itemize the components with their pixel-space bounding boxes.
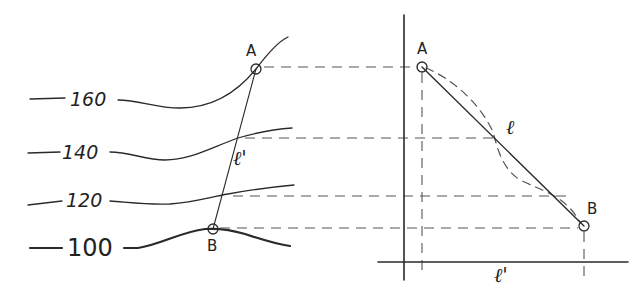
contour-label-120: 120 [66, 189, 102, 211]
point-b-profile-label: B [587, 200, 597, 218]
point-a-profile-label: A [417, 40, 428, 58]
contour-160-line [118, 37, 288, 108]
contour-120-line [110, 185, 294, 204]
profile-segment-ab [422, 67, 584, 226]
contour-120-left-tick [28, 201, 62, 205]
contour-profile-diagram: 160 140 120 100 A B ℓ' A B ℓ ℓ' [0, 0, 638, 299]
contour-label-140: 140 [62, 141, 98, 163]
baseline-length-label: ℓ' [494, 263, 508, 287]
plan-segment-label: ℓ' [233, 146, 247, 170]
profile-view [378, 15, 628, 280]
contour-140-left-tick [28, 152, 60, 153]
contour-160-left-tick [30, 98, 65, 99]
point-b-plan-label: B [207, 237, 217, 255]
contour-140-line [110, 128, 292, 160]
contour-label-160: 160 [70, 88, 106, 110]
contour-label-100: 100 [67, 234, 113, 262]
profile-segment-label: ℓ [506, 115, 515, 139]
point-a-plan-label: A [246, 42, 257, 60]
